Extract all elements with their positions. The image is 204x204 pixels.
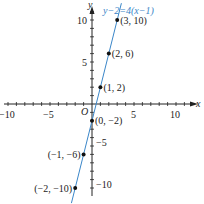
x-axis-label: x	[195, 98, 201, 109]
data-point	[90, 119, 94, 123]
point-label: (1, 2)	[103, 82, 125, 94]
data-point	[98, 85, 102, 89]
equation-line	[71, 3, 121, 203]
point-label: (3, 10)	[120, 15, 147, 27]
point-label: (−2, −10)	[34, 183, 72, 195]
data-point	[107, 52, 111, 56]
x-tick-label: 10	[170, 109, 180, 120]
graph-figure: x y O −10 −5 5 10 10 5 −5 −10 y−2=4(x−1)…	[0, 0, 204, 204]
point-label: (2, 6)	[112, 48, 134, 60]
point-label: (−1, −6)	[48, 149, 81, 161]
x-tick-label: −10	[0, 109, 15, 120]
coordinate-plane: x y O −10 −5 5 10 10 5 −5 −10 y−2=4(x−1)…	[0, 0, 204, 204]
y-axis-label: y	[87, 0, 93, 10]
data-point	[115, 18, 119, 22]
x-tick-label: −5	[43, 109, 54, 120]
axis-ticks	[8, 12, 184, 188]
x-tick-label: 5	[131, 109, 136, 120]
point-label: (0, −2)	[95, 115, 122, 127]
y-tick-label: 5	[82, 57, 87, 68]
y-tick-label: −5	[96, 137, 107, 148]
y-tick-label: −10	[96, 179, 112, 190]
origin-label: O	[81, 106, 88, 117]
data-point	[82, 152, 86, 156]
data-point	[73, 186, 77, 190]
y-tick-label: 10	[77, 15, 87, 26]
